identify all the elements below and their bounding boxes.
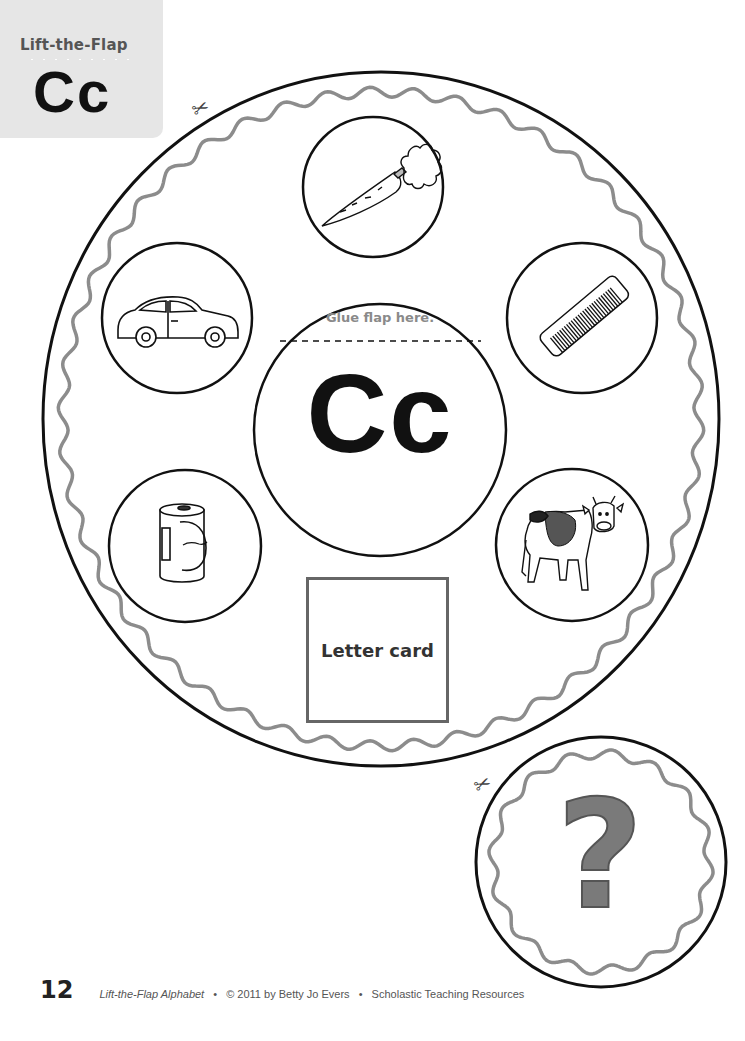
- center-letter: Cc: [280, 358, 480, 470]
- publisher: Scholastic Teaching Resources: [372, 988, 525, 1000]
- book-title: Lift-the-Flap Alphabet: [99, 988, 204, 1000]
- footer-credits: Lift-the-Flap Alphabet • © 2011 by Betty…: [99, 988, 524, 1000]
- glue-instruction: Glue flap here.: [305, 310, 455, 325]
- copyright: © 2011 by Betty Jo Evers: [226, 988, 349, 1000]
- can-icon: [160, 504, 207, 582]
- picture-comb: [507, 243, 657, 393]
- picture-car: [102, 243, 252, 393]
- picture-carrot: [303, 117, 443, 257]
- picture-cow: [496, 469, 648, 621]
- page-number: 12: [40, 976, 73, 1004]
- footer: 12 Lift-the-Flap Alphabet • © 2011 by Be…: [40, 976, 524, 1004]
- picture-can: [109, 470, 261, 622]
- letter-card[interactable]: Letter card: [306, 577, 449, 723]
- question-mark-icon: ?: [545, 780, 655, 930]
- separator: •: [359, 988, 363, 1000]
- letter-card-label: Letter card: [321, 640, 434, 661]
- separator: •: [213, 988, 217, 1000]
